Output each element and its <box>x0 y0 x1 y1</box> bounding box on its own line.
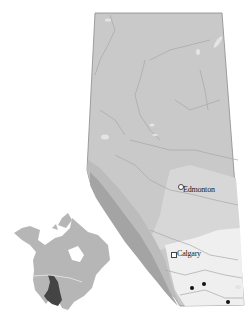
location-point <box>202 282 206 286</box>
inset-land <box>14 218 110 310</box>
north-america-inset <box>14 213 110 310</box>
location-point <box>226 300 230 304</box>
edmonton-label: Edmonton <box>183 185 215 194</box>
alberta-map <box>0 0 250 323</box>
location-point <box>190 286 194 290</box>
arctic-islands <box>52 213 72 230</box>
calgary-label: Calgary <box>177 249 201 258</box>
